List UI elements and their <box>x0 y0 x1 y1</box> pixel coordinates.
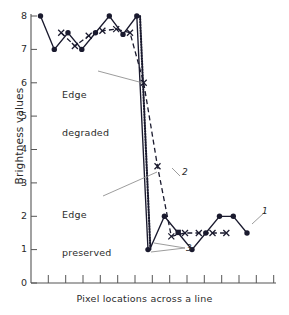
curve-label-1: 1 <box>262 206 268 216</box>
curve-label-2: 2 <box>182 167 188 177</box>
y-tick-label-8: 8 <box>14 10 27 21</box>
annotation-edge-preserved-line1: Edge <box>62 209 112 222</box>
y-axis-title: Brightness values <box>13 81 25 191</box>
y-tick-label-2: 2 <box>14 210 27 221</box>
chart-plot-area <box>0 0 289 315</box>
y-tick-label-1: 1 <box>14 243 27 254</box>
series-3-edge-preserved <box>140 16 150 250</box>
y-tick-label-7: 7 <box>14 43 27 54</box>
annotation-edge-degraded: Edge degraded <box>62 64 109 164</box>
annotation-edge-degraded-line2: degraded <box>62 127 109 140</box>
x-axis-title: Pixel locations across a line <box>0 293 289 304</box>
curve-label-3: 3 <box>186 243 192 253</box>
chart-figure: 8 7 6 5 4 3 2 1 0 Brightness values Pixe… <box>0 0 289 315</box>
y-tick-label-0: 0 <box>14 277 27 288</box>
annotation-edge-preserved: Edge preserved <box>62 184 112 284</box>
y-axis-ticks <box>31 16 37 283</box>
annotation-edge-degraded-line1: Edge <box>62 89 109 102</box>
annotation-edge-preserved-line2: preserved <box>62 247 112 260</box>
